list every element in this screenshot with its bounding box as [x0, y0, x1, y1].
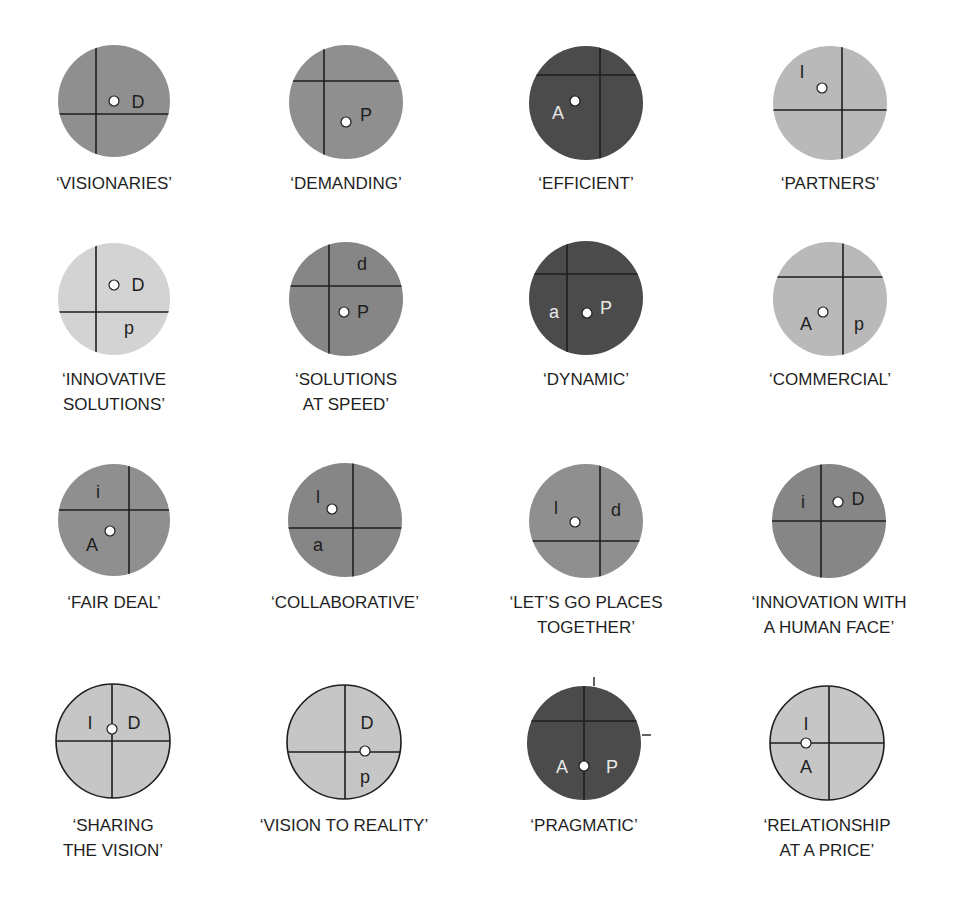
quadrant-letter: l — [316, 487, 320, 507]
quadrant-letter: P — [357, 302, 369, 322]
circle-label: ‘FAIR DEAL’ — [67, 593, 161, 612]
position-dot-icon — [360, 746, 370, 756]
circle-label: ‘VISIONARIES’ — [56, 174, 172, 193]
quadrant-letter: A — [800, 314, 812, 334]
circle-diagram-innovative-solutions: Dp‘INNOVATIVESOLUTIONS’ — [56, 241, 172, 414]
circle-diagram-vision-to-reality: Dp‘VISION TO REALITY’ — [260, 683, 428, 835]
quadrant-letter: i — [96, 482, 100, 502]
circle-label: ‘VISION TO REALITY’ — [260, 816, 428, 835]
circle-disc — [289, 242, 403, 356]
circle-disc — [58, 243, 170, 355]
circle-label: ‘PRAGMATIC’ — [530, 816, 637, 835]
quadrant-letter: I — [799, 62, 804, 82]
quadrant-letter: d — [611, 500, 621, 520]
circle-label: ‘PARTNERS’ — [781, 174, 880, 193]
position-dot-icon — [570, 517, 580, 527]
quadrant-letter: D — [361, 713, 374, 733]
circle-disc — [529, 241, 643, 355]
circle-diagram-partners: I‘PARTNERS’ — [771, 44, 889, 193]
circle-label: ‘COLLABORATIVE’ — [271, 593, 419, 612]
quadrant-letter: D — [132, 275, 145, 295]
position-dot-icon — [341, 117, 351, 127]
circle-label: ‘LET’S GO PLACES — [509, 593, 662, 612]
circle-label: ‘INNOVATIVE — [62, 370, 166, 389]
quadrant-letter: D — [128, 713, 141, 733]
circle-label: ‘DEMANDING’ — [290, 174, 401, 193]
circle-diagram-commercial: Ap‘COMMERCIAL’ — [769, 240, 891, 389]
position-dot-icon — [105, 526, 115, 536]
circle-label: A HUMAN FACE’ — [764, 618, 894, 637]
position-dot-icon — [339, 307, 349, 317]
quadrant-letter: P — [606, 757, 618, 777]
quadrant-letter: P — [600, 298, 612, 318]
circle-disc — [773, 46, 887, 160]
circle-diagram-demanding: P‘DEMANDING’ — [287, 43, 405, 193]
quadrant-letter: D — [132, 92, 145, 112]
circle-label: AT A PRICE’ — [780, 841, 875, 860]
circle-label: ‘INNOVATION WITH — [751, 593, 906, 612]
circle-diagram-pragmatic: AP‘PRAGMATIC’ — [525, 677, 651, 835]
circle-diagram-lets-go-places-together: ld‘LET’S GO PLACESTOGETHER’ — [509, 462, 662, 637]
circle-disc — [529, 46, 643, 160]
quadrant-letter: A — [552, 103, 564, 123]
quadrant-letter: a — [313, 535, 324, 555]
quadrant-letter: d — [357, 254, 367, 274]
position-dot-icon — [327, 504, 337, 514]
quadrant-letter: A — [556, 757, 568, 777]
position-dot-icon — [107, 724, 117, 734]
quadrant-letter: a — [549, 302, 560, 322]
position-dot-icon — [109, 280, 119, 290]
circle-diagram-relationship-at-a-price: IA‘RELATIONSHIPAT A PRICE’ — [763, 684, 890, 860]
circle-disc — [529, 464, 643, 578]
circle-diagram-innovation-with-a-human-face: iD‘INNOVATION WITHA HUMAN FACE’ — [751, 462, 906, 637]
circle-label: THE VISION’ — [63, 841, 163, 860]
quadrant-letter: p — [124, 318, 134, 338]
position-dot-icon — [109, 96, 119, 106]
circle-disc — [773, 242, 887, 356]
position-dot-icon — [833, 497, 843, 507]
quadrant-letter: I — [803, 714, 808, 734]
position-dot-icon — [818, 307, 828, 317]
circle-label: ‘SHARING — [72, 816, 153, 835]
quadrant-letter: i — [801, 492, 805, 512]
circle-label: ‘RELATIONSHIP — [763, 816, 890, 835]
circle-label: AT SPEED’ — [303, 395, 389, 414]
circle-disc — [58, 464, 170, 576]
circle-diagram-collaborative: la‘COLLABORATIVE’ — [271, 461, 419, 612]
quadrant-letter: l — [554, 498, 558, 518]
circle-diagram-solutions-at-speed: dP‘SOLUTIONSAT SPEED’ — [287, 240, 405, 414]
circle-diagram-fair-deal: iA‘FAIR DEAL’ — [56, 462, 172, 612]
circle-disc — [287, 685, 401, 799]
quadrant-letter: A — [86, 535, 98, 555]
circle-label: ‘SOLUTIONS — [295, 370, 397, 389]
quadrant-letter: I — [87, 713, 92, 733]
positioning-circles-diagram: D‘VISIONARIES’P‘DEMANDING’A‘EFFICIENT’I‘… — [0, 0, 968, 903]
circle-disc — [288, 463, 402, 577]
position-dot-icon — [570, 96, 580, 106]
position-dot-icon — [582, 308, 592, 318]
circle-label: ‘COMMERCIAL’ — [769, 370, 891, 389]
circle-label: TOGETHER’ — [537, 618, 635, 637]
circle-diagram-dynamic: aP‘DYNAMIC’ — [527, 239, 645, 389]
circle-label: SOLUTIONS’ — [63, 395, 165, 414]
circle-label: ‘EFFICIENT’ — [538, 174, 633, 193]
quadrant-letter: A — [800, 757, 812, 777]
position-dot-icon — [801, 738, 811, 748]
quadrant-letter: p — [854, 314, 864, 334]
circle-label: ‘DYNAMIC’ — [543, 370, 629, 389]
circle-diagram-efficient: A‘EFFICIENT’ — [527, 44, 645, 193]
quadrant-letter: D — [852, 489, 865, 509]
position-dot-icon — [817, 83, 827, 93]
quadrant-letter: P — [360, 105, 372, 125]
quadrant-letter: p — [360, 767, 370, 787]
circle-diagram-visionaries: D‘VISIONARIES’ — [56, 43, 172, 193]
position-dot-icon — [579, 761, 589, 771]
circle-diagram-sharing-the-vision: ID‘SHARINGTHE VISION’ — [54, 682, 172, 860]
circle-disc — [289, 45, 403, 159]
